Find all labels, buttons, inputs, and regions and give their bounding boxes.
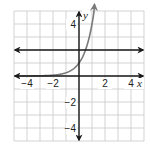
y-axis-label: y xyxy=(82,9,88,21)
x-tick-label: 2 xyxy=(102,78,108,89)
y-tick-label: 4 xyxy=(70,19,76,30)
x-axis-label: x xyxy=(136,77,142,89)
exponential-graph: −4−224x4−2−4y xyxy=(0,0,150,153)
x-tick-label: −2 xyxy=(47,78,59,89)
y-tick-label: −4 xyxy=(65,123,77,134)
x-tick-label: 4 xyxy=(128,78,134,89)
x-tick-label: −4 xyxy=(21,78,33,89)
axes xyxy=(15,12,143,140)
y-tick-label: −2 xyxy=(65,97,77,108)
